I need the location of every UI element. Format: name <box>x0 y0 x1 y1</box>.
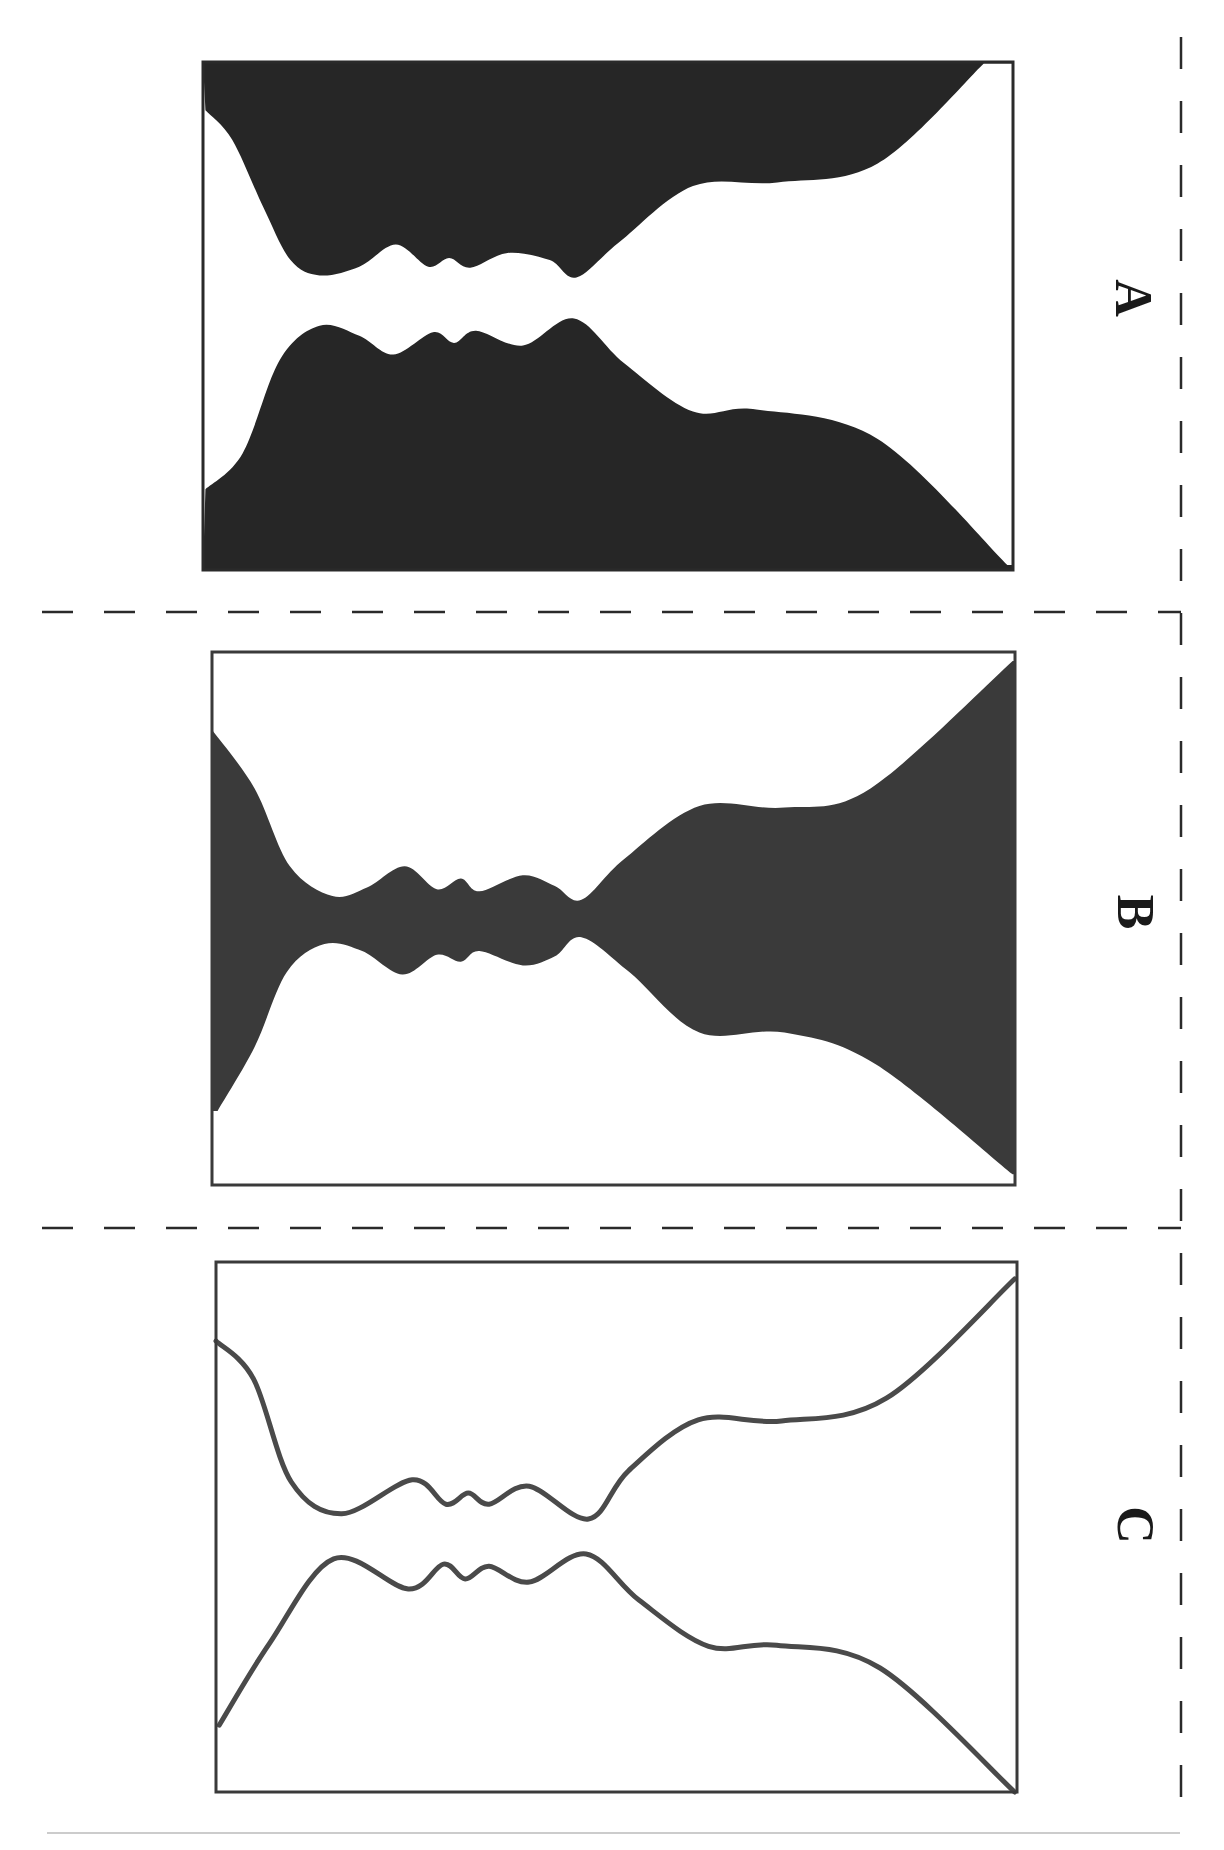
panel-a-shapes <box>203 62 1013 570</box>
upper-profile-outline <box>216 1279 1015 1519</box>
panel-c-shapes <box>216 1279 1015 1792</box>
panel-a-label: A <box>1105 279 1162 317</box>
vase-silhouette <box>212 661 1015 1174</box>
panel-b <box>212 652 1015 1185</box>
panel-c <box>216 1262 1017 1792</box>
panel-c-label: C <box>1107 1506 1164 1544</box>
panel-a <box>203 62 1013 570</box>
panel-b-label: B <box>1107 895 1164 930</box>
panel-c-frame <box>216 1262 1017 1792</box>
lower-profile-outline <box>219 1554 1014 1792</box>
upper-face-silhouette <box>203 62 1013 278</box>
panel-b-shapes <box>212 661 1015 1174</box>
lower-face-silhouette <box>203 318 1013 570</box>
figure-canvas: A B C <box>0 0 1224 1850</box>
